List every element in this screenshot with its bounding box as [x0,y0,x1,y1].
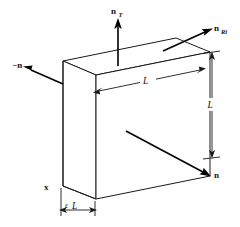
slab-diagram: n T n Ri −n n L [0,0,240,227]
normal-right-label: n [214,23,219,33]
normal-top-label: n [111,6,116,16]
normal-left-shaft [31,70,63,84]
normal-front-label: n [214,170,219,180]
normal-right-subscript: Ri [220,28,227,35]
normal-left-arrowhead [23,66,34,72]
figure-container: n T n Ri −n n L [0,0,240,227]
thickness-label-L: L [71,201,77,211]
axis-x-label: x [44,182,49,192]
slab-left-side-face [63,61,96,199]
thickness-label-epsilon: ε [65,201,68,210]
normal-left-vector [23,66,63,84]
normal-left-label: −n [12,60,22,70]
normal-top-subscript: T [119,11,124,18]
height-label: L [207,100,213,110]
length-label: L [142,76,148,86]
